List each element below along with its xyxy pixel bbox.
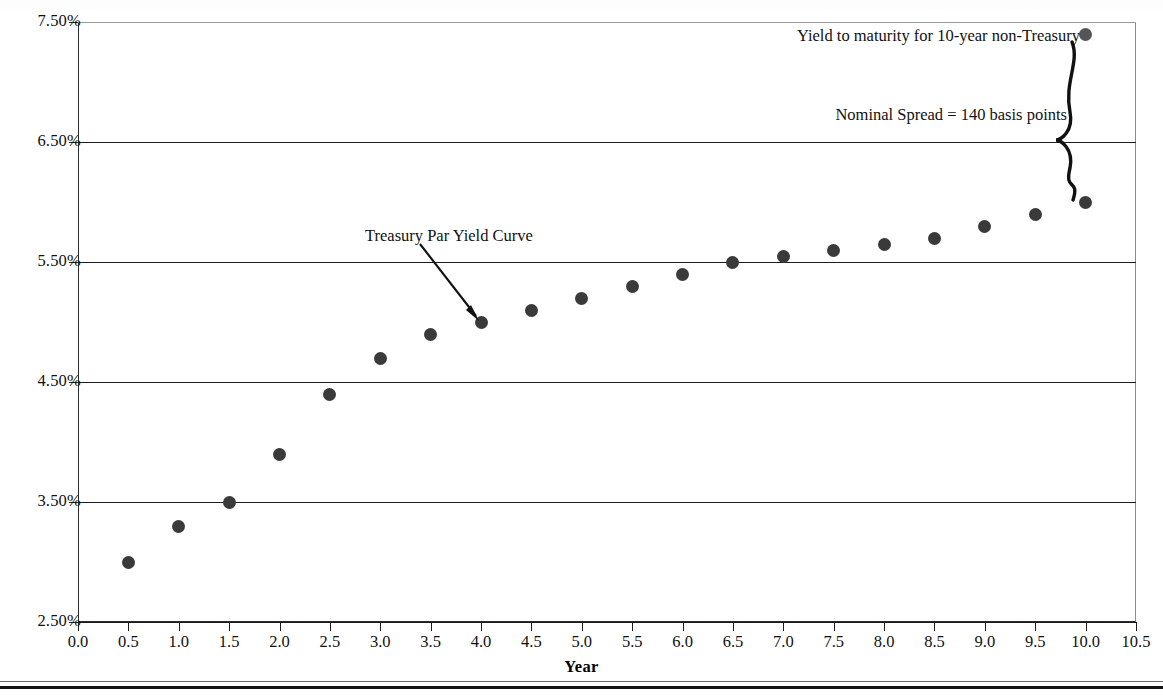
y-axis-tick-label: 3.50% (1, 491, 81, 511)
x-axis-tick-label: 1.5 (219, 632, 240, 652)
x-axis-tick (229, 622, 230, 631)
data-point-treasury (223, 496, 236, 509)
y-axis-tick-label: 6.50% (1, 131, 81, 151)
gridline-horizontal (78, 622, 1136, 623)
x-axis-tick (733, 622, 734, 631)
data-point-treasury (273, 448, 286, 461)
data-point-treasury (978, 220, 991, 233)
x-axis-tick-label: 7.5 (823, 632, 844, 652)
x-axis-tick-label: 6.0 (672, 632, 693, 652)
x-axis-tick (380, 622, 381, 631)
y-axis-tick-label: 4.50% (1, 371, 81, 391)
x-axis-tick-label: 5.5 (622, 632, 643, 652)
x-axis-tick-label: 10.0 (1071, 632, 1100, 652)
data-point-treasury (676, 268, 689, 281)
x-axis-tick-label: 0.5 (118, 632, 139, 652)
data-point-treasury (575, 292, 588, 305)
x-axis-tick (280, 622, 281, 631)
x-axis-title: Year (0, 657, 1163, 677)
x-axis-tick (1035, 622, 1036, 631)
x-axis-tick (128, 622, 129, 631)
x-axis-tick-label: 6.5 (723, 632, 744, 652)
scan-artifact-top (0, 0, 1163, 9)
y-axis-tick-label: 7.50% (1, 11, 81, 31)
x-axis-tick (884, 622, 885, 631)
x-axis-tick (783, 622, 784, 631)
x-axis-tick-label: 4.5 (521, 632, 542, 652)
x-axis-tick (683, 622, 684, 631)
x-axis-tick (431, 622, 432, 631)
x-axis-tick-label: 7.0 (773, 632, 794, 652)
annotation-yield-to-maturity-non-treasury: Yield to maturity for 10-year non-Treasu… (797, 26, 1080, 46)
x-axis-tick (632, 622, 633, 631)
data-point-treasury (726, 256, 739, 269)
data-point-treasury (475, 316, 488, 329)
x-axis-tick (582, 622, 583, 631)
x-axis-tick-label: 8.0 (874, 632, 895, 652)
x-axis-tick (834, 622, 835, 631)
data-point-treasury (928, 232, 941, 245)
y-axis-tick-label: 5.50% (1, 251, 81, 271)
data-point-treasury (172, 520, 185, 533)
gridline-horizontal (78, 22, 1136, 23)
x-axis-tick-label: 10.5 (1122, 632, 1151, 652)
x-axis-tick-label: 0.0 (68, 632, 89, 652)
gridline-horizontal (78, 502, 1136, 503)
x-axis-tick-label: 9.5 (1025, 632, 1046, 652)
x-axis-tick-label: 1.0 (168, 632, 189, 652)
x-axis-tick-label: 9.0 (975, 632, 996, 652)
x-axis-tick-label: 8.5 (924, 632, 945, 652)
data-point-treasury (424, 328, 437, 341)
data-point-treasury (525, 304, 538, 317)
yield-curve-chart-figure: 2.50%3.50%4.50%5.50%6.50%7.50% 0.00.51.0… (0, 0, 1163, 699)
x-axis-tick (531, 622, 532, 631)
data-point-treasury (827, 244, 840, 257)
x-axis-tick-label: 3.0 (370, 632, 391, 652)
x-axis-tick (179, 622, 180, 631)
x-axis-tick-label: 2.0 (269, 632, 290, 652)
data-point-non-treasury (1079, 28, 1092, 41)
data-point-treasury (878, 238, 891, 251)
x-axis-tick (1136, 622, 1137, 631)
x-axis-tick (78, 622, 79, 631)
annotation-treasury-par-yield-curve: Treasury Par Yield Curve (365, 226, 533, 246)
x-axis-tick (481, 622, 482, 631)
gridline-horizontal (78, 142, 1136, 143)
x-axis-tick (985, 622, 986, 631)
x-axis-tick-label: 5.0 (571, 632, 592, 652)
y-axis-tick-label: 2.50% (1, 611, 81, 631)
data-point-treasury (323, 388, 336, 401)
data-point-treasury (1079, 196, 1092, 209)
data-point-treasury (374, 352, 387, 365)
annotation-nominal-spread: Nominal Spread = 140 basis points (835, 105, 1067, 125)
page-edge-rule (0, 686, 1163, 689)
x-axis-tick-label: 2.5 (320, 632, 341, 652)
x-axis-tick (934, 622, 935, 631)
page-edge-rule-light (0, 681, 1163, 682)
data-point-treasury (122, 556, 135, 569)
x-axis-tick (330, 622, 331, 631)
x-axis-tick-label: 3.5 (420, 632, 441, 652)
data-point-treasury (1029, 208, 1042, 221)
x-axis-tick (1086, 622, 1087, 631)
data-point-treasury (777, 250, 790, 263)
x-axis-tick-label: 4.0 (471, 632, 492, 652)
data-point-treasury (626, 280, 639, 293)
gridline-horizontal (78, 382, 1136, 383)
gridline-horizontal (78, 262, 1136, 263)
